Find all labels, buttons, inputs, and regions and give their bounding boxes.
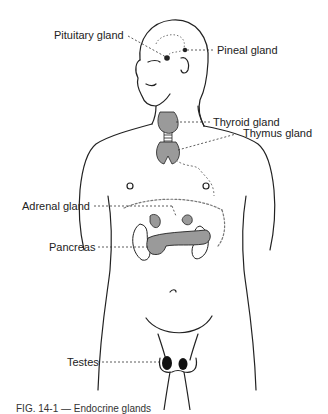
pineal-gland-dot bbox=[183, 48, 187, 52]
thymus-gland-shape bbox=[157, 142, 180, 164]
testis-left-shape bbox=[162, 356, 172, 370]
adrenal-gland-right-shape bbox=[182, 215, 192, 225]
label-pancreas: Pancreas bbox=[49, 241, 95, 253]
label-testes: Testes bbox=[67, 356, 99, 368]
label-adrenal-gland: Adrenal gland bbox=[22, 200, 90, 212]
testis-right-shape bbox=[179, 358, 188, 370]
thyroid-gland-shape bbox=[158, 112, 178, 133]
pituitary-gland-dot bbox=[164, 55, 170, 61]
label-pineal-gland: Pineal gland bbox=[217, 44, 278, 56]
pancreas-shape bbox=[147, 230, 210, 255]
adrenal-gland-left-shape bbox=[150, 214, 160, 227]
label-pituitary-gland: Pituitary gland bbox=[54, 29, 124, 41]
label-thymus-gland: Thymus gland bbox=[243, 127, 312, 139]
figure-caption: FIG. 14-1 — Endocrine glands bbox=[16, 403, 151, 414]
